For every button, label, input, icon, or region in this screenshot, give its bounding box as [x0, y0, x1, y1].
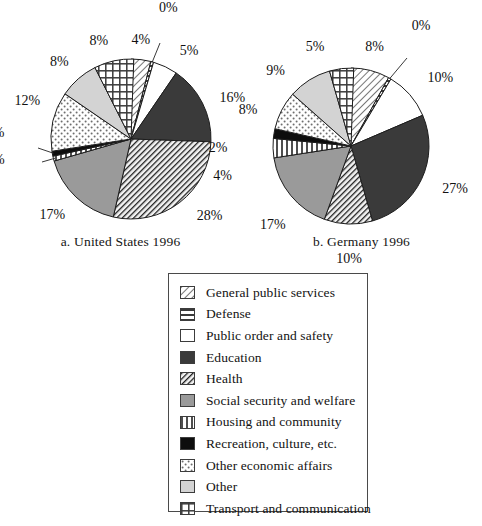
pie-value-label: 8% — [365, 40, 384, 54]
charts-container: 4%0%5%16%28%17%1%1%12%8%8% a. United Sta… — [0, 0, 482, 262]
legend-swatch-vertical-lines — [180, 416, 195, 429]
pie-value-label: 17% — [39, 208, 65, 222]
legend-item-label: Health — [206, 372, 243, 386]
legend-swatch-dense-diagonal-hatch — [180, 372, 195, 385]
legend-item: Education — [180, 347, 440, 368]
pie-value-label: 10% — [336, 252, 362, 266]
legend-item: Public order and safety — [180, 325, 440, 346]
legend-item: General public services — [180, 282, 440, 303]
leader-line — [389, 58, 407, 79]
pie-slices-germany — [273, 68, 429, 224]
legend-item: Recreation, culture, etc. — [180, 433, 440, 454]
legend-item-label: Education — [206, 351, 262, 365]
legend-swatch-stipple-dots — [180, 459, 195, 472]
pie-svg-united-states — [0, 0, 241, 262]
pie-value-label: 8% — [50, 55, 69, 69]
pie-chart-germany: 8%0%10%27%10%17%4%2%8%9%5% b. Germany 19… — [241, 0, 482, 262]
legend-item-label: Recreation, culture, etc. — [206, 437, 337, 451]
pie-value-label: 5% — [306, 40, 325, 54]
pie-value-label: 9% — [266, 64, 285, 78]
pie-value-label: 27% — [442, 182, 468, 196]
pie-value-label: 17% — [260, 218, 286, 232]
legend-swatch-solid-light-gray — [180, 480, 195, 493]
pie-slices-united-states — [51, 59, 211, 219]
legend-swatch-grid-crosshatch — [180, 502, 195, 515]
legend-item-label: Other economic affairs — [206, 459, 332, 473]
legend-item-label: General public services — [206, 286, 335, 300]
legend-swatch-solid-white — [180, 329, 195, 342]
legend-swatch-diagonal-hatch-light — [180, 286, 195, 299]
legend-item: Housing and community — [180, 412, 440, 433]
legend-item-label: Other — [206, 480, 237, 494]
legend-item: Defense — [180, 304, 440, 325]
pie-value-label: 10% — [427, 71, 453, 85]
legend-swatch-solid-dark-gray — [180, 351, 195, 364]
legend-swatch-solid-black — [180, 437, 195, 450]
legend-item: Social security and welfare — [180, 390, 440, 411]
legend-item: Health — [180, 368, 440, 389]
legend-item: Transport and communication — [180, 498, 440, 519]
pie-value-label: 12% — [15, 94, 41, 108]
pie-value-label: 4% — [213, 169, 232, 183]
leader-line — [152, 43, 160, 63]
pie-value-label: 4% — [132, 33, 151, 47]
legend: General public servicesDefensePublic ord… — [168, 273, 368, 512]
pie-value-label: 28% — [197, 209, 223, 223]
leader-line — [42, 158, 55, 162]
legend-item-label: Defense — [206, 307, 251, 321]
pie-value-label: 0% — [412, 19, 431, 33]
pie-value-label: 1% — [0, 153, 5, 167]
pie-chart-united-states: 4%0%5%16%28%17%1%1%12%8%8% a. United Sta… — [0, 0, 241, 262]
pie-value-label: 8% — [239, 103, 258, 117]
pie-value-label: 8% — [89, 34, 108, 48]
caption-germany: b. Germany 1996 — [241, 234, 482, 250]
pie-value-label: 2% — [209, 141, 228, 155]
legend-item-label: Transport and communication — [206, 502, 371, 516]
legend-swatch-solid-medium-gray — [180, 394, 195, 407]
legend-item: Other — [180, 476, 440, 497]
legend-item-label: Housing and community — [206, 415, 342, 429]
leader-lines-germany — [389, 58, 407, 79]
legend-swatch-horizontal-lines — [180, 308, 195, 321]
legend-item-label: Public order and safety — [206, 329, 333, 343]
legend-item: Other economic affairs — [180, 455, 440, 476]
pie-value-label: 1% — [0, 126, 4, 140]
pie-value-label: 5% — [180, 44, 199, 58]
pie-value-label: 0% — [159, 1, 178, 15]
legend-item-label: Social security and welfare — [206, 394, 355, 408]
caption-united-states: a. United States 1996 — [0, 234, 241, 250]
legend-list: General public servicesDefensePublic ord… — [180, 282, 440, 520]
